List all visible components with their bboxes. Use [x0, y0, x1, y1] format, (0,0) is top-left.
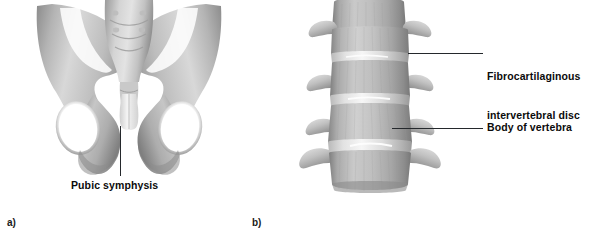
intervertebral-disc-leader-line — [408, 53, 483, 54]
panel-b-caption: b) — [252, 217, 261, 228]
vertebrae-stack — [299, 0, 441, 193]
pubic-symphysis-leader-line — [120, 126, 121, 176]
panel-a-pelvis: Pubic symphysis a) — [0, 0, 296, 246]
vertebral-body-leader-line — [392, 128, 483, 129]
transverse-process-right-4 — [408, 148, 441, 168]
pelvis-bone-group — [37, 0, 222, 175]
pelvis-illustration — [0, 0, 296, 246]
intervertebral-disc-label-line1: Fibrocartilaginous — [487, 70, 580, 83]
vertebral-body-label: Body of vertebra — [487, 121, 572, 134]
pubic-symphysis-label: Pubic symphysis — [71, 179, 158, 192]
anatomy-figure: Pubic symphysis a) — [0, 0, 592, 246]
vertebral-body-4-base-shadow — [332, 181, 408, 193]
panel-a-caption: a) — [7, 217, 16, 228]
transverse-process-left-4 — [299, 148, 332, 168]
